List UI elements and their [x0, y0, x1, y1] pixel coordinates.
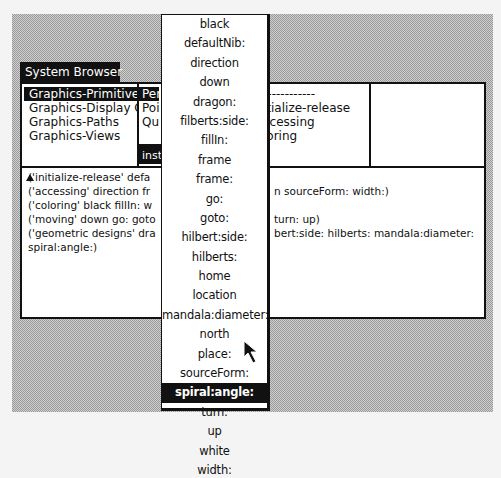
menu-item-sourceform[interactable]: sourceForm: [162, 364, 267, 383]
menu-item-dragon[interactable]: dragon: [162, 93, 267, 112]
window-title-tab[interactable]: System Browser [20, 62, 120, 82]
menu-item-frame-colon[interactable]: frame: [162, 170, 267, 189]
class-item[interactable]: Qu [139, 115, 159, 129]
menu-item-filberts-side[interactable]: filberts:side: [162, 112, 267, 131]
protocol-item[interactable]: ccessing [263, 115, 350, 129]
category-pane[interactable]: Graphics-Primitive Graphics-Display O Gr… [22, 84, 139, 168]
window-title: System Browser [25, 65, 122, 79]
code-text-right: n sourceForm: width:) turn: up) bert:sid… [274, 170, 480, 254]
protocol-item[interactable]: loring [263, 129, 350, 143]
menu-item-hilberts[interactable]: hilberts: [162, 248, 267, 267]
menu-item-hilbert-side[interactable]: hilbert:side: [162, 228, 267, 247]
code-line: n sourceForm: width:) [274, 184, 480, 198]
code-line: bert:side: hilberts: mandala:diameter: [274, 226, 480, 240]
protocol-list: ------------ itialize-release ccessing l… [263, 87, 350, 143]
menu-item-turn[interactable]: turn: [162, 403, 267, 422]
code-line [274, 198, 480, 212]
category-item[interactable]: Graphics-Primitive [24, 87, 137, 101]
menu-item-direction[interactable]: direction [162, 54, 267, 73]
class-list: Per Poi Qu [139, 87, 159, 129]
class-item[interactable]: Poi [139, 101, 159, 115]
menu-item-fillin[interactable]: fillIn: [162, 131, 267, 150]
class-item[interactable]: Per [139, 87, 159, 101]
menu-item-width[interactable]: width: [162, 461, 267, 478]
method-pane[interactable] [371, 84, 484, 168]
menu-item-black[interactable]: black [162, 15, 267, 34]
protocol-item[interactable]: itialize-release [263, 101, 350, 115]
menu-item-defaultnib[interactable]: defaultNib: [162, 34, 267, 53]
menu-item-go[interactable]: go: [162, 190, 267, 209]
menu-item-up[interactable]: up [162, 422, 267, 441]
protocol-separator: ------------ [263, 87, 350, 101]
code-line [274, 240, 480, 254]
category-item[interactable]: Graphics-Views [24, 129, 137, 143]
code-line [274, 170, 480, 184]
menu-item-location[interactable]: location [162, 286, 267, 305]
menu-item-goto[interactable]: goto: [162, 209, 267, 228]
mouse-pointer-icon [242, 340, 260, 366]
menu-item-white[interactable]: white [162, 442, 267, 461]
category-item[interactable]: Graphics-Display O [24, 101, 137, 115]
menu-item-spiral-angle[interactable]: spiral:angle: [162, 383, 267, 402]
code-line: turn: up) [274, 212, 480, 226]
category-item[interactable]: Graphics-Paths [24, 115, 137, 129]
menu-item-mandala-diameter[interactable]: mandala:diameter: [162, 306, 267, 325]
menu-item-down[interactable]: down [162, 73, 267, 92]
menu-item-home[interactable]: home [162, 267, 267, 286]
menu-item-frame[interactable]: frame [162, 151, 267, 170]
